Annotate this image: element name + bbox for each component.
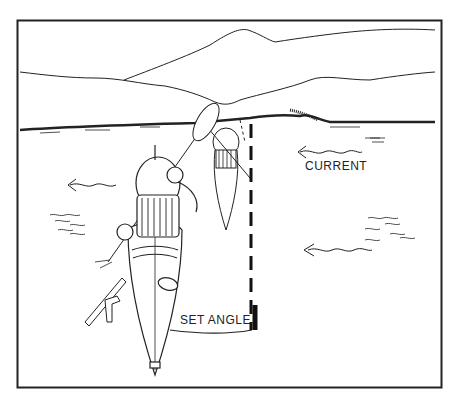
set-angle-arrow [85,278,126,326]
far-kayak [208,128,250,230]
near-paddler [117,145,197,240]
course-line [251,124,255,330]
near-kayak [128,223,182,376]
set-angle-arc [170,330,252,333]
current-label: CURRENT [305,159,367,173]
set-angle-label: SET ANGLE [180,313,251,327]
kayak-illustration: SET ANGLE CURRENT [0,0,455,404]
mountains [20,29,435,104]
far-course-line [240,120,245,142]
